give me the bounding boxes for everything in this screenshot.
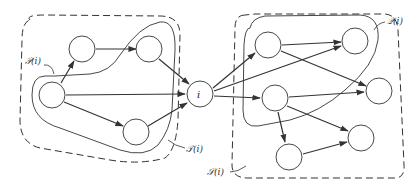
edge-R3-R4 xyxy=(289,92,364,97)
node-L1 xyxy=(39,82,65,108)
edge-L4-i xyxy=(148,103,187,126)
leaders xyxy=(44,22,385,172)
node-L4 xyxy=(123,119,149,145)
node-R3 xyxy=(262,85,288,111)
node-R2 xyxy=(342,28,368,54)
edge-R1-R2 xyxy=(282,42,341,45)
edges xyxy=(61,42,366,154)
edge-i-R3 xyxy=(214,96,260,98)
edge-L1-L2 xyxy=(61,61,74,83)
node-R5 xyxy=(348,125,374,151)
node-i-label: i xyxy=(197,89,200,100)
edge-L1-i xyxy=(66,94,185,95)
graph-diagram: i 𝒫(i) 𝒯(i) 𝒮(i) 𝒬(i) xyxy=(0,0,419,194)
node-R4 xyxy=(366,78,392,104)
node-R6 xyxy=(276,144,302,170)
label-right-dashed: 𝒮(i) xyxy=(207,167,224,177)
nodes xyxy=(39,28,392,170)
node-L3 xyxy=(136,36,162,62)
label-left-dashed: 𝒯(i) xyxy=(186,144,203,154)
edge-R6-R5 xyxy=(303,142,347,154)
edge-R3-R6 xyxy=(278,112,285,142)
node-R1 xyxy=(255,32,281,58)
label-right-solid: 𝒬(i) xyxy=(387,16,403,26)
edge-L1-L4 xyxy=(64,102,123,126)
edge-R1-R4 xyxy=(281,51,366,86)
node-L2 xyxy=(69,36,95,62)
label-left-solid: 𝒫(i) xyxy=(25,56,41,66)
